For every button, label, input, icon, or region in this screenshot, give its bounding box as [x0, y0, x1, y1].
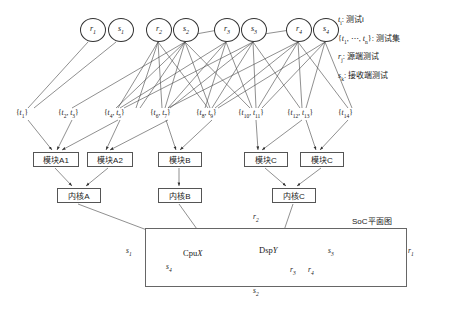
node-label: r2: [156, 25, 162, 35]
node-label: s2: [183, 25, 189, 35]
module-box-a2[interactable]: 模块A2: [87, 152, 133, 167]
test-set-label: {t8, t9}: [196, 108, 217, 119]
sink-node-s4[interactable]: s4: [313, 18, 339, 42]
edge-label-r1: r1: [408, 246, 414, 257]
diagram-canvas: r1 s1 r2 s2 r3 s3 r4 s4 {t1} {t2, t3} {t…: [0, 0, 469, 318]
module-box-c2[interactable]: 模块C: [300, 152, 344, 167]
legend-row-test-set: {t1, ⋯, tn}: 测试集: [338, 31, 466, 50]
node-label: s3: [251, 25, 257, 35]
node-label: r4: [296, 25, 302, 35]
source-node-r3[interactable]: r3: [214, 18, 240, 42]
legend-row-sink-test: sk: 接收端测试: [338, 68, 466, 87]
module-box-c1[interactable]: 模块C: [244, 152, 288, 167]
test-set-label: {t1}: [16, 108, 28, 119]
node-label: r3: [224, 25, 230, 35]
node-label: s1: [118, 25, 124, 35]
soc-unit-label: DspY: [259, 245, 277, 255]
edge-label-s3: s3: [328, 246, 334, 257]
legend-row-source-test: rj: 源端测试: [338, 49, 466, 68]
module-box-a1[interactable]: 模块A1: [33, 152, 79, 167]
test-set-label: {t2, t3}: [58, 108, 79, 119]
test-set-label: {t6, t7}: [150, 108, 171, 119]
edge-label-s1: s1: [126, 246, 132, 257]
edge-label-r3: r3: [290, 265, 296, 276]
legend: ti: 测试i {t1, ⋯, tn}: 测试集 rj: 源端测试 sk: 接收…: [338, 12, 466, 86]
kernel-box-b[interactable]: 内核B: [158, 188, 202, 203]
source-node-r4[interactable]: r4: [286, 18, 312, 42]
test-set-label: {t10, t11}: [238, 108, 264, 119]
edge-label-s4: s4: [166, 262, 172, 273]
kernel-box-c[interactable]: 内核C: [272, 188, 316, 203]
source-node-r2[interactable]: r2: [146, 18, 172, 42]
kernel-box-a[interactable]: 内核A: [57, 188, 101, 203]
soc-unit-label: CpuX: [183, 248, 202, 258]
sink-node-s2[interactable]: s2: [173, 18, 199, 42]
node-label: r1: [90, 25, 96, 35]
source-node-r1[interactable]: r1: [80, 18, 106, 42]
edge-label-r4: r4: [308, 265, 314, 276]
soc-unit-dsp[interactable]: DspY: [259, 245, 277, 255]
module-box-b[interactable]: 模块B: [158, 152, 202, 167]
sink-node-s3[interactable]: s3: [241, 18, 267, 42]
test-set-label: {t14}: [338, 108, 353, 119]
test-set-label: {t12, t13}: [287, 108, 313, 119]
test-set-label: {t4, t5}: [104, 108, 125, 119]
node-label: s4: [323, 25, 329, 35]
edge-label-s2: s2: [253, 286, 259, 297]
legend-row-test: ti: 测试i: [338, 12, 466, 31]
soc-floorplan-title: SoC平面图: [352, 215, 392, 226]
soc-unit-cpu[interactable]: CpuX: [183, 248, 202, 258]
sink-node-s1[interactable]: s1: [108, 18, 134, 42]
edge-label-r2: r2: [253, 212, 259, 223]
